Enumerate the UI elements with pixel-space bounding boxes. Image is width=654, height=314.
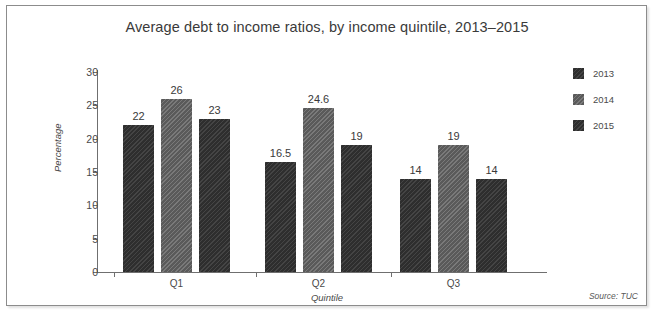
x-axis-line	[97, 272, 547, 273]
y-tick-label: 5	[92, 233, 98, 245]
bar-value-label: 19	[447, 130, 459, 142]
bar-2013-Q3: 14	[400, 179, 431, 272]
category-label-Q1: Q1	[170, 278, 183, 289]
bar-2013-Q1: 22	[123, 125, 154, 272]
chart-figure: Average debt to income ratios, by income…	[0, 0, 654, 314]
bar-2015-Q3: 14	[476, 179, 507, 272]
y-tick-label: 0	[92, 266, 98, 278]
legend-swatch-icon	[573, 68, 584, 79]
y-axis-title: Percentage	[52, 123, 63, 172]
category-label-Q3: Q3	[447, 278, 460, 289]
bar-2014-Q1: 26	[161, 99, 192, 272]
y-tick-label: 10	[86, 199, 98, 211]
bar-value-label: 14	[485, 164, 497, 176]
x-tick-mark	[391, 272, 392, 277]
x-tick-mark	[256, 272, 257, 277]
legend-label: 2014	[593, 94, 614, 105]
source-note: Source: TUC	[589, 291, 638, 301]
y-tick-label: 30	[86, 66, 98, 78]
chart-legend: 201320142015	[573, 60, 643, 138]
bar-2015-Q2: 19	[341, 145, 372, 272]
bar-2015-Q1: 23	[199, 119, 230, 272]
legend-item-2014[interactable]: 2014	[573, 86, 643, 112]
bar-value-label: 16.5	[270, 147, 291, 159]
bar-value-label: 24.6	[308, 93, 329, 105]
bar-2014-Q3: 19	[438, 145, 469, 272]
x-tick-mark	[114, 272, 115, 277]
bar-value-label: 14	[409, 164, 421, 176]
bar-value-label: 22	[132, 110, 144, 122]
x-axis-title: Quintile	[0, 292, 654, 303]
legend-swatch-icon	[573, 120, 584, 131]
legend-label: 2013	[593, 68, 614, 79]
bar-2014-Q2: 24.6	[303, 108, 334, 272]
y-tick-label: 15	[86, 166, 98, 178]
y-tick-label: 25	[86, 99, 98, 111]
plot-area: 051015202530 22262316.524.619141914 Q1Q2…	[98, 72, 546, 272]
bar-value-label: 26	[170, 84, 182, 96]
legend-label: 2015	[593, 120, 614, 131]
legend-swatch-icon	[573, 94, 584, 105]
bar-2013-Q2: 16.5	[265, 162, 296, 272]
legend-item-2015[interactable]: 2015	[573, 112, 643, 138]
bar-value-label: 23	[208, 104, 220, 116]
category-label-Q2: Q2	[312, 278, 325, 289]
y-tick-label: 20	[86, 133, 98, 145]
chart-title: Average debt to income ratios, by income…	[0, 19, 654, 35]
bar-value-label: 19	[350, 130, 362, 142]
legend-item-2013[interactable]: 2013	[573, 60, 643, 86]
